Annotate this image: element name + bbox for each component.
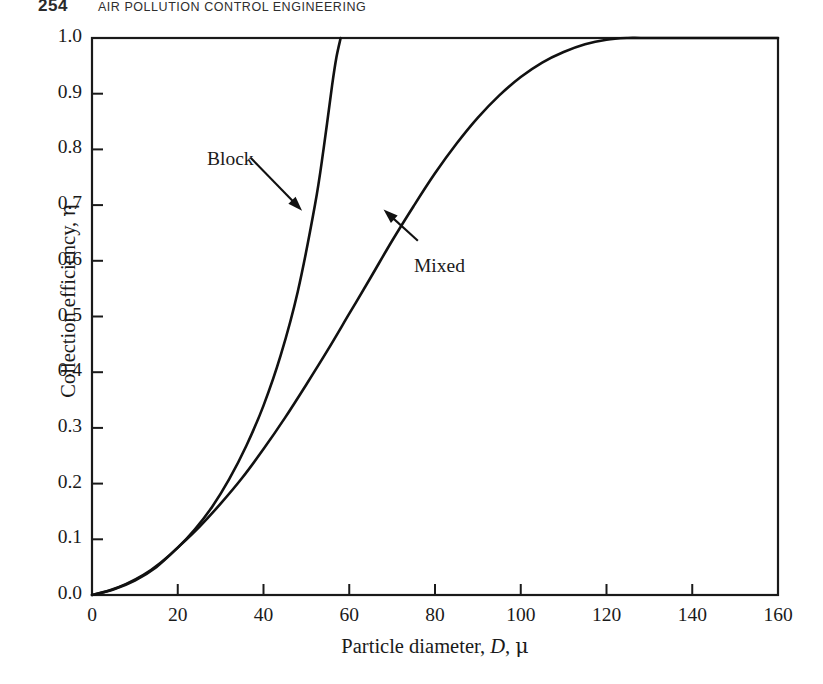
x-axis-symbol-d: D: [490, 635, 505, 657]
x-tick-label: 20: [148, 604, 208, 626]
x-tick-label: 160: [748, 604, 808, 626]
series-curve-mixed: [92, 38, 778, 595]
figure-collection-efficiency-chart: Collection efficiency, η Particle diamet…: [0, 0, 823, 684]
x-tick-label: 0: [62, 604, 122, 626]
x-tick-label: 140: [662, 604, 722, 626]
curve-annotation-mixed: Mixed: [414, 255, 465, 277]
arrow-block: [251, 158, 302, 211]
y-tick-label: 0.7: [30, 192, 82, 214]
y-tick-label: 0.5: [30, 304, 82, 326]
x-tick-label: 40: [234, 604, 294, 626]
chart-plot-area: [0, 0, 823, 684]
x-axis-symbol-mu: μ: [515, 634, 528, 658]
y-tick-label: 0.4: [30, 359, 82, 381]
y-tick-label: 0.9: [30, 81, 82, 103]
annotation-arrows: [251, 158, 418, 241]
arrow-mixed: [384, 210, 418, 241]
plot-frame-border: [92, 38, 778, 595]
x-axis-title: Particle diameter, D, μ: [92, 634, 778, 658]
x-axis-title-text: Particle diameter,: [341, 635, 490, 657]
y-tick-label: 0.1: [30, 526, 82, 548]
y-tick-label: 0.0: [30, 582, 82, 604]
y-tick-label: 0.3: [30, 415, 82, 437]
series-curve-block: [92, 38, 341, 595]
curve-annotation-block: Block: [207, 148, 254, 170]
y-axis-title: Collection efficiency, η: [56, 21, 80, 581]
chart-series-curves: [92, 38, 778, 595]
x-tick-label: 120: [577, 604, 637, 626]
y-tick-label: 1.0: [30, 25, 82, 47]
y-tick-label: 0.8: [30, 136, 82, 158]
x-tick-label: 60: [319, 604, 379, 626]
y-tick-label: 0.2: [30, 471, 82, 493]
x-axis-tick-marks: [178, 584, 693, 595]
y-tick-label: 0.6: [30, 248, 82, 270]
x-tick-label: 100: [491, 604, 551, 626]
x-axis-title-comma: ,: [505, 635, 515, 657]
y-axis-tick-marks: [92, 94, 103, 540]
x-tick-label: 80: [405, 604, 465, 626]
